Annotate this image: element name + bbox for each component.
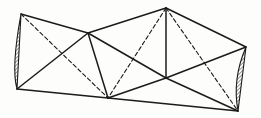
polyhedron-net-figure (0, 0, 261, 118)
diagram-canvas (0, 0, 261, 118)
